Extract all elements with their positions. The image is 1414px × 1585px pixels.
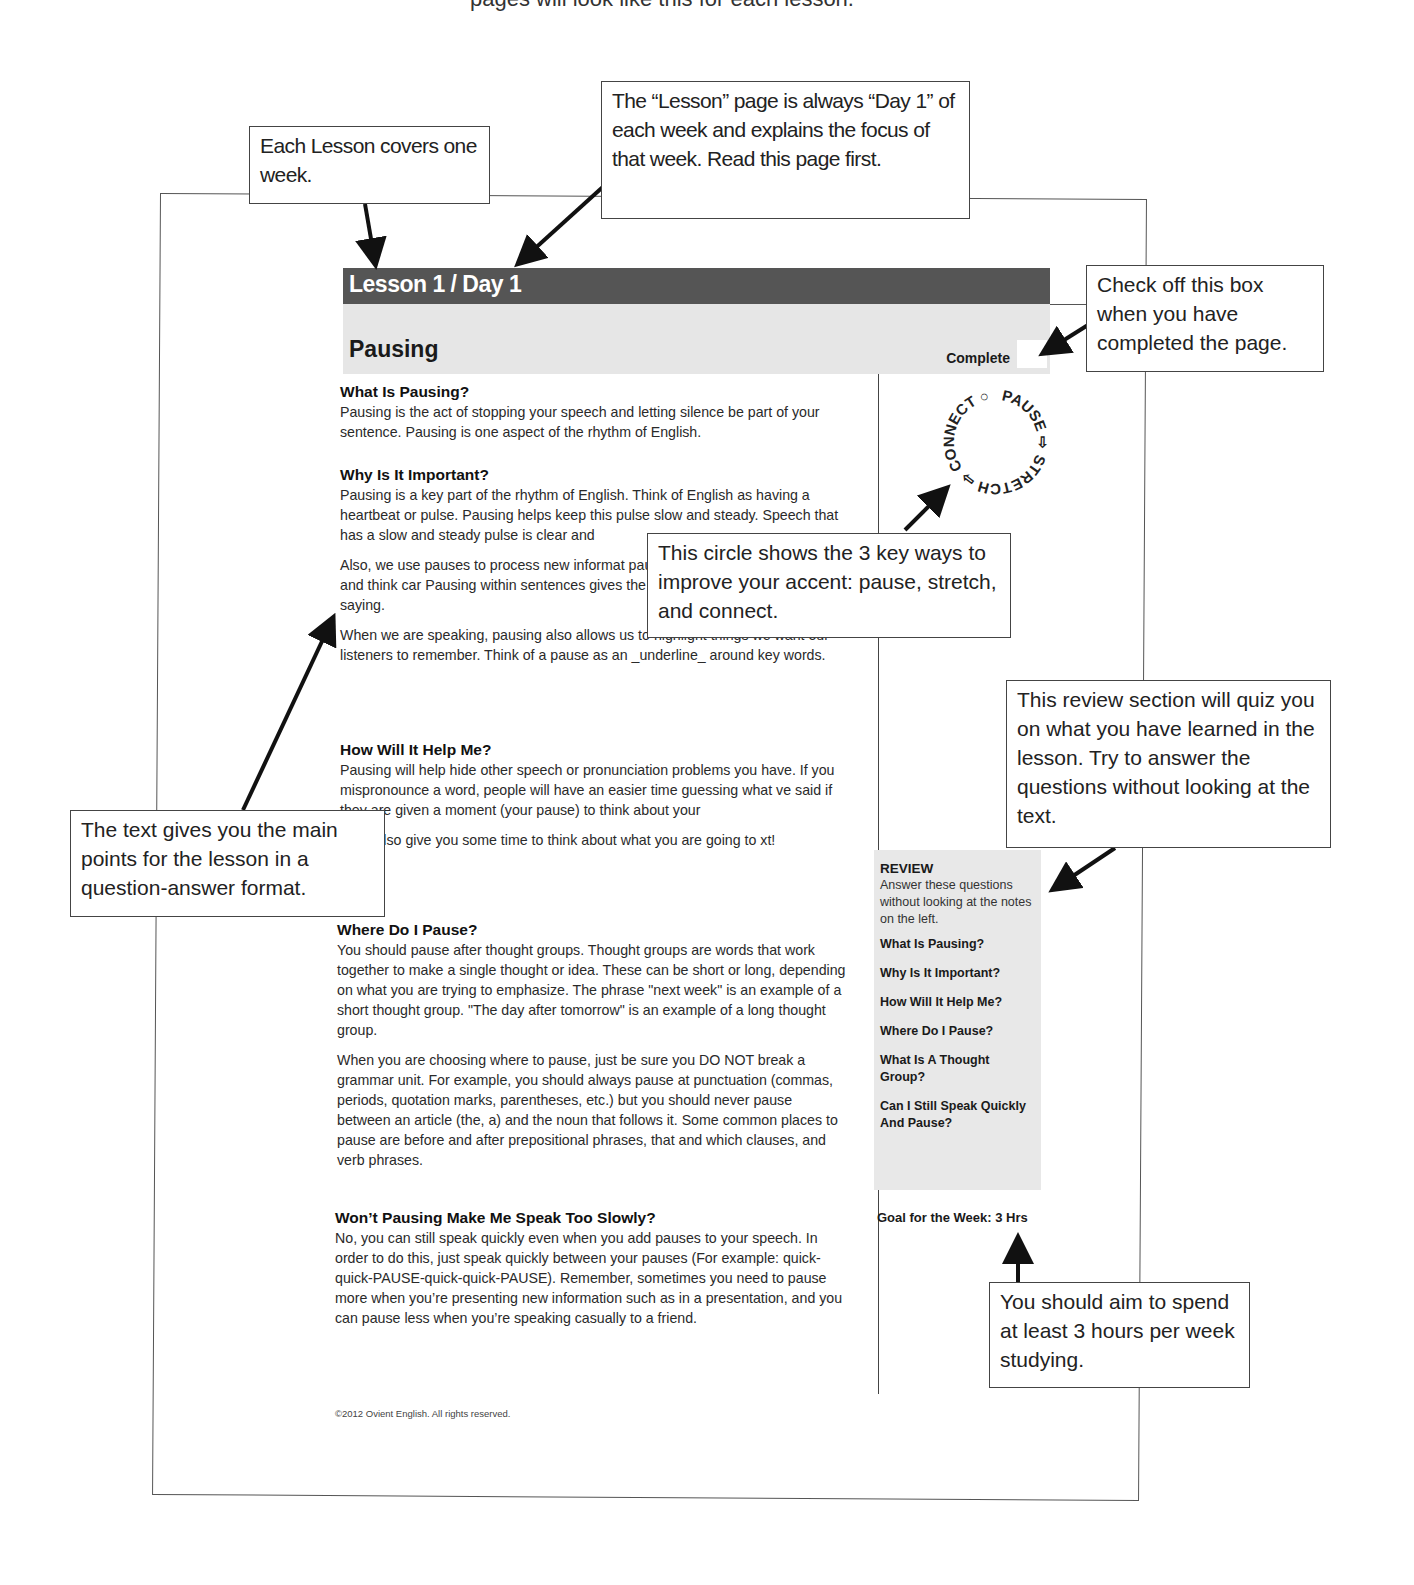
callout-review: This review section will quiz you on wha… bbox=[1006, 680, 1331, 848]
callout-checkbox: Check off this box when you have complet… bbox=[1086, 265, 1324, 372]
callout-goal: You should aim to spend at least 3 hours… bbox=[989, 1282, 1250, 1388]
callout-day-one: The “Lesson” page is always “Day 1” of e… bbox=[601, 81, 970, 219]
callout-lesson-week: Each Lesson covers one week. bbox=[249, 126, 490, 204]
callout-circle: This circle shows the 3 key ways to impr… bbox=[647, 533, 1011, 638]
callout-text-format: The text gives you the main points for t… bbox=[70, 810, 385, 917]
